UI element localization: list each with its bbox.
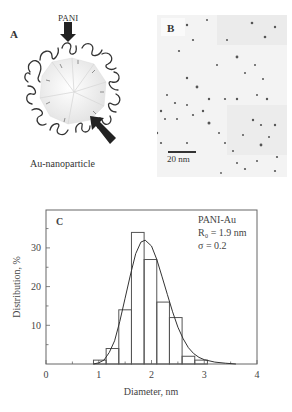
legend-line-1: PANI-Au	[198, 214, 236, 225]
histogram-bar	[157, 302, 170, 364]
y-axis-title: Distribution, %	[11, 256, 22, 318]
histogram-bar	[131, 232, 144, 364]
y-tick-label: 30	[31, 242, 41, 253]
histogram-bars	[93, 232, 207, 364]
histogram-bar	[106, 349, 119, 364]
y-tick-labels: 102030	[31, 242, 41, 330]
x-tick-labels: 01234	[44, 369, 260, 380]
x-tick-label: 2	[149, 369, 154, 380]
x-axis-title: Diameter, nm	[124, 386, 179, 397]
histogram-bar	[169, 318, 182, 364]
histogram-bar	[144, 260, 157, 364]
y-tick-label: 10	[31, 320, 41, 331]
x-tick-label: 4	[255, 369, 260, 380]
histogram-bar	[182, 356, 195, 364]
x-tick-label: 0	[44, 369, 49, 380]
legend-line-3: σ = 0.2	[198, 240, 227, 251]
histogram-bar	[195, 360, 208, 364]
x-tick-label: 1	[96, 369, 101, 380]
y-tick-label: 20	[31, 281, 41, 292]
legend-line-2: R₀ = 1.9 nm	[198, 227, 247, 238]
panel-c-label: C	[56, 216, 63, 227]
distribution-chart: 01234 102030 Diameter, nm Distribution, …	[0, 0, 292, 412]
x-tick-label: 3	[202, 369, 207, 380]
